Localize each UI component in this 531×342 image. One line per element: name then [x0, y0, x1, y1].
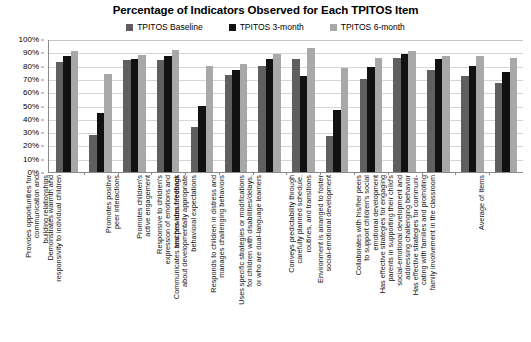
bar-baseline — [123, 60, 131, 172]
x-axis-label-line: active engagement — [144, 175, 152, 239]
bar-baseline — [225, 75, 233, 172]
bar-6month — [307, 48, 315, 172]
bar-3month — [266, 59, 274, 172]
x-axis-label-line: social-emotional development — [325, 175, 333, 283]
bar-group — [286, 40, 320, 172]
bar-group — [253, 40, 287, 172]
y-axis-tick-label: 40% — [23, 116, 39, 124]
bar-baseline — [461, 76, 469, 172]
bar-6month — [442, 56, 450, 172]
bar-baseline — [191, 127, 199, 172]
bar-6month — [240, 64, 248, 172]
y-axis-tick-mark — [41, 173, 44, 174]
plot-area — [48, 40, 523, 173]
x-axis-label-line: or who are dual-language learners — [255, 175, 263, 305]
bar-6month — [138, 55, 146, 172]
x-axis-label-line: routines, and transitions — [305, 175, 313, 273]
x-axis-label: Has effective strategies for engagingpar… — [379, 175, 413, 293]
bar-baseline — [326, 136, 334, 172]
y-axis-tick-mark — [41, 66, 44, 67]
bar-6month — [341, 68, 349, 172]
bar-chart: Percentage of Indicators Observed for Ea… — [0, 0, 531, 342]
x-axis-label: Promotes positivepeer interactions — [105, 175, 122, 233]
x-axis-label: Communicates and provides feedbackabout … — [173, 175, 198, 299]
bar-group — [185, 40, 219, 172]
y-axis-tick-label: 70% — [23, 76, 39, 84]
x-axis-label-line: peer interactions — [113, 175, 121, 233]
y-axis-tick-mark — [41, 53, 44, 54]
legend-label-3month: TPITOS 3-month — [240, 22, 304, 32]
bar-6month — [408, 51, 416, 172]
bar-group — [388, 40, 422, 172]
y-axis: 100%90%80%70%60%50%40%30%20%10%0% — [0, 40, 44, 173]
x-axis-label: Promotes children'sactive engagement — [136, 175, 153, 239]
bar-group — [84, 40, 118, 172]
bar-6month — [375, 58, 383, 172]
y-axis-tick-mark — [41, 79, 44, 80]
bar-3month — [333, 110, 341, 173]
bar-3month — [300, 76, 308, 172]
bar-3month — [435, 59, 443, 172]
x-axis-label-line: responsivity to individual children — [55, 175, 63, 282]
bar-3month — [164, 56, 172, 172]
x-axis-label: Demonstrates warmth andresponsivity to i… — [46, 175, 63, 282]
bar-baseline — [56, 62, 64, 172]
chart-title: Percentage of Indicators Observed for Ea… — [0, 4, 531, 16]
bar-group — [219, 40, 253, 172]
bar-3month — [502, 72, 510, 172]
y-axis-tick-mark — [41, 93, 44, 94]
legend-item-6month: TPITOS 6-month — [330, 22, 405, 32]
x-axis-label: Collaborates with his/her peersto suppor… — [354, 175, 379, 275]
bar-group — [118, 40, 152, 172]
bar-baseline — [393, 58, 401, 172]
legend-swatch-3month — [229, 24, 236, 31]
bar-group — [422, 40, 456, 172]
y-axis-tick-mark — [41, 119, 44, 120]
bars-layer — [50, 40, 523, 172]
x-axis-label: Uses specific strategies or modification… — [238, 175, 263, 305]
y-axis-tick-mark — [41, 40, 44, 41]
x-axis-label: Has effective strategies for communi-cat… — [412, 175, 437, 295]
y-axis-tick-label: 100% — [19, 36, 39, 44]
x-axis-label-line: Average of Items — [479, 175, 487, 230]
x-axis-label-line: manages challenging behaviors — [219, 175, 227, 293]
y-axis-tick-mark — [41, 106, 44, 107]
x-axis-label: Average of Items — [479, 175, 487, 230]
legend-swatch-baseline — [126, 24, 133, 31]
bar-6month — [510, 58, 518, 172]
bar-baseline — [292, 59, 300, 172]
bar-3month — [232, 70, 240, 172]
bar-6month — [71, 51, 79, 172]
bar-baseline — [360, 79, 368, 172]
y-axis-tick-mark — [41, 133, 44, 134]
x-axis-label: Responds to children in distress andmana… — [210, 175, 227, 293]
x-axis-labels: Provides opportunities forcommunication … — [49, 175, 523, 342]
legend-item-baseline: TPITOS Baseline — [126, 22, 203, 32]
bar-baseline — [258, 66, 266, 172]
y-axis-tick-label: 10% — [23, 156, 39, 164]
bar-3month — [63, 56, 71, 172]
bar-6month — [273, 54, 281, 172]
bar-group — [354, 40, 388, 172]
bar-3month — [131, 59, 139, 172]
x-axis-label-cell: Average of Items — [489, 175, 523, 342]
bar-baseline — [495, 83, 503, 172]
y-axis-tick-label: 90% — [23, 49, 39, 57]
bar-3month — [367, 67, 375, 172]
bar-group — [455, 40, 489, 172]
bar-group — [489, 40, 523, 172]
bar-3month — [469, 66, 477, 172]
y-axis-tick-label: 80% — [23, 63, 39, 71]
y-axis-tick-label: 20% — [23, 142, 39, 150]
x-axis-label-line: behavioral expectations — [190, 175, 198, 299]
legend-swatch-6month — [330, 24, 337, 31]
bar-group — [320, 40, 354, 172]
bar-baseline — [427, 70, 435, 172]
x-axis-label: Environment is arranged to fostersocial-… — [317, 175, 334, 283]
bar-6month — [476, 56, 484, 172]
legend-item-3month: TPITOS 3-month — [229, 22, 304, 32]
y-axis-tick-label: 30% — [23, 129, 39, 137]
y-axis-tick-label: 60% — [23, 89, 39, 97]
bar-6month — [206, 66, 214, 172]
y-axis-tick-mark — [41, 146, 44, 147]
